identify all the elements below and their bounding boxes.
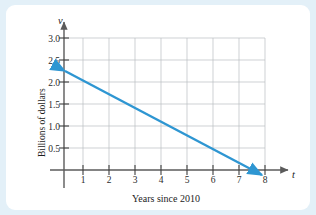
chart-axes xyxy=(50,22,288,188)
data-series-line xyxy=(65,71,262,175)
figure-card: Billions of dollars v t 3.0 2.5 2.0 1.5 … xyxy=(6,5,310,210)
chart-plot-area xyxy=(6,5,310,210)
chart-gridlines xyxy=(64,38,265,168)
